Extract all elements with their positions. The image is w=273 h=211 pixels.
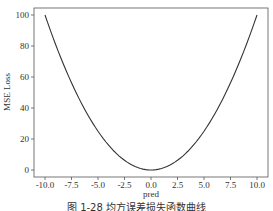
x-axis-label: pred: [143, 189, 159, 199]
y-tick-label: 0: [25, 165, 30, 175]
mse-loss-chart: 020406080100 -10.0-7.5-5.0-2.50.02.55.07…: [0, 0, 273, 211]
y-tick-label: 20: [20, 134, 30, 144]
x-tick-label: 5.0: [198, 180, 210, 190]
y-tick-label: 40: [20, 103, 30, 113]
y-axis-label: MSE Loss: [2, 73, 12, 111]
x-tick-label: -5.0: [91, 180, 106, 190]
x-tick-label: 10.0: [249, 180, 265, 190]
y-tick-label: 100: [16, 10, 30, 20]
x-tick-label: 7.5: [225, 180, 237, 190]
y-tick-label: 80: [20, 41, 30, 51]
plot-frame: [34, 8, 268, 177]
y-axis-ticks: 020406080100: [16, 10, 35, 175]
loss-curve: [45, 15, 257, 170]
x-tick-label: -7.5: [64, 180, 79, 190]
figure-caption: 图 1-28 均方误差损失函数曲线: [0, 199, 273, 211]
x-tick-label: 2.5: [172, 180, 184, 190]
x-tick-label: -10.0: [36, 180, 55, 190]
y-tick-label: 60: [20, 72, 30, 82]
x-tick-label: -2.5: [117, 180, 132, 190]
